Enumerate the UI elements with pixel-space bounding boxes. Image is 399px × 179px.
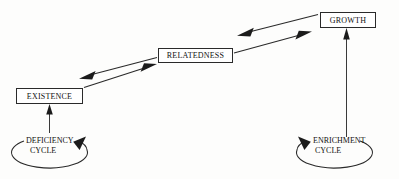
node-relatedness-label: RELATEDNESS bbox=[167, 51, 224, 60]
deficiency-cycle-label-line2: CYCLE bbox=[26, 146, 74, 156]
node-existence[interactable]: EXISTENCE bbox=[16, 88, 83, 104]
enrichment-cycle-label-line2: CYCLE bbox=[313, 146, 365, 156]
node-growth[interactable]: GROWTH bbox=[320, 12, 376, 28]
node-growth-label: GROWTH bbox=[330, 16, 366, 25]
enrichment-cycle-label-line1: ENRICHMENT bbox=[313, 136, 365, 145]
enrichment-cycle-label: ENRICHMENT CYCLE bbox=[313, 136, 365, 155]
arrow-deficiency-cycle-to-existence bbox=[46, 104, 53, 133]
node-relatedness[interactable]: RELATEDNESS bbox=[158, 48, 233, 63]
node-existence-label: EXISTENCE bbox=[27, 92, 72, 101]
erg-motivation-diagram: EXISTENCE RELATEDNESS GROWTH DEFICIENCY … bbox=[0, 0, 399, 179]
deficiency-cycle-label: DEFICIENCY CYCLE bbox=[26, 136, 74, 155]
arrow-enrichment-cycle-to-growth bbox=[343, 28, 350, 137]
deficiency-cycle-label-line1: DEFICIENCY bbox=[26, 136, 74, 145]
